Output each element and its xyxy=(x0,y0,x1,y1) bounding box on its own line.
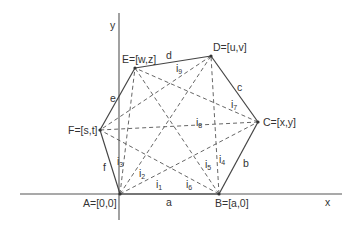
diagonal-label-i2: i2 xyxy=(139,167,145,180)
diagonals xyxy=(100,56,258,194)
vertex-label-A: A=[0,0] xyxy=(83,197,117,209)
side-label-e: e xyxy=(110,92,116,104)
diagonal-i4 xyxy=(211,56,219,194)
vertex-E-point xyxy=(133,66,136,69)
side-label-a: a xyxy=(166,196,172,208)
diagonal-label-i5: i5 xyxy=(205,158,211,171)
side-b xyxy=(219,122,258,194)
side-c xyxy=(211,56,258,122)
hexagon-sides xyxy=(100,56,258,194)
diagonal-i8 xyxy=(100,122,258,130)
diagonal-label-i9: i9 xyxy=(176,62,182,75)
diagonal-label-i7: i7 xyxy=(231,98,237,111)
vertices xyxy=(98,54,259,195)
vertex-label-E: E=[w,z] xyxy=(122,53,156,65)
y-axis-label: y xyxy=(110,19,116,31)
diagonal-label-i6: i6 xyxy=(186,178,192,191)
side-label-d: d xyxy=(166,49,172,61)
diagonal-label-i4: i4 xyxy=(219,153,225,166)
diagonal-label-i1: i1 xyxy=(156,178,162,191)
vertex-label-D: D=[u,v] xyxy=(213,41,247,53)
x-axis-label: x xyxy=(325,196,331,208)
vertex-A-point xyxy=(118,192,121,195)
vertex-B-point xyxy=(217,192,220,195)
diagonal-label-i8: i8 xyxy=(196,116,202,129)
diagonal-i7 xyxy=(135,68,258,122)
vertex-label-C: C=[x,y] xyxy=(263,116,296,128)
vertex-F-point xyxy=(98,128,101,131)
vertex-C-point xyxy=(256,120,259,123)
side-label-c: c xyxy=(237,81,242,93)
hexagon-coordinate-diagram: x y i1i2i3i4i5i6i7i8i9abcdefA=[0,0]B=[a,… xyxy=(0,0,361,230)
side-label-f: f xyxy=(103,161,106,173)
diagonal-i9 xyxy=(100,56,211,130)
vertex-D-point xyxy=(209,54,212,57)
vertex-label-F: F=[s,t] xyxy=(68,124,98,136)
diagonal-label-i3: i3 xyxy=(117,155,123,168)
diagonal-i5 xyxy=(135,68,219,194)
side-label-b: b xyxy=(243,157,249,169)
vertex-label-B: B=[a,0] xyxy=(215,197,249,209)
side-e xyxy=(100,68,135,130)
